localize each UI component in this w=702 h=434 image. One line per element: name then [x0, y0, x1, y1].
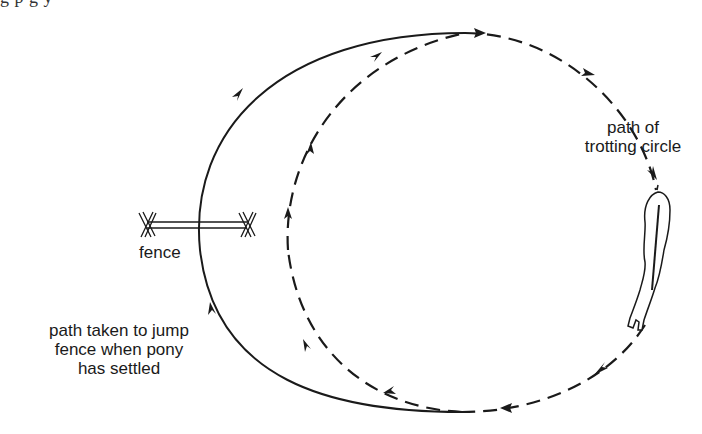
trotting-circle-arrow-icons: [284, 28, 657, 413]
jump-path-label: path taken to jump fence when pony has s…: [24, 321, 214, 378]
trotting-circle-label-line-1: path of: [569, 118, 697, 137]
cropped-text-fragment: g p g y: [0, 0, 702, 8]
trotting-circle-label: path of trotting circle: [569, 118, 697, 156]
jump-path-label-line-3: has settled: [24, 359, 214, 378]
diagram-canvas: g p g y: [0, 0, 702, 434]
trotting-circle-label-line-2: trotting circle: [569, 137, 697, 156]
pony-icon: [628, 185, 670, 330]
jump-path-arrow-icons: [208, 88, 243, 315]
jump-path-label-line-2: fence when pony: [24, 340, 214, 359]
jump-path-label-line-1: path taken to jump: [24, 321, 214, 340]
trotting-circle-path: [288, 33, 656, 412]
fence-label: fence: [139, 243, 181, 262]
fence-icon: [139, 212, 256, 237]
